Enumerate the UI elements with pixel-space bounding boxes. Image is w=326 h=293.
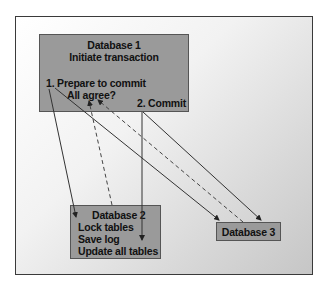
database-2-box: Database 2 Lock tables Save log Update a… [70, 205, 161, 259]
database-1-box: Database 1 Initiate transaction 1. Prepa… [39, 34, 189, 112]
all-agree-label: All agree? [67, 89, 116, 101]
database-3-title: Database 3 [217, 226, 280, 238]
database-3-box: Database 3 [216, 222, 281, 241]
step-1-label: 1. Prepare to commit [46, 77, 146, 89]
database-1-subtitle: Initiate transaction [40, 51, 188, 63]
database-1-title: Database 1 [40, 39, 188, 51]
database-2-title: Database 2 [92, 209, 145, 221]
save-log-label: Save log [78, 233, 120, 245]
step-2-label: 2. Commit [137, 97, 186, 109]
lock-tables-label: Lock tables [78, 221, 134, 233]
update-all-tables-label: Update all tables [78, 245, 158, 257]
